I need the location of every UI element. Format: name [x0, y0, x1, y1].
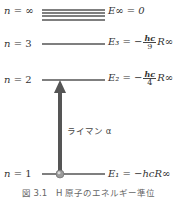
n-symbol: n [4, 38, 10, 49]
level-infinity-lines [42, 10, 105, 20]
energy-1-label: E₁ = −hcR∞ [108, 168, 170, 179]
energy-level-diagram: n = ∞ n = 3 n = 2 n = 1 E∞ = 0 E₃ = −hc9… [0, 0, 177, 201]
figure-caption: 図 3.1 H 原子のエネルギー準位 [0, 186, 177, 198]
energy-3-label: E₃ = −hc9R∞ [108, 34, 173, 51]
lyman-alpha-label: ライマン α [67, 124, 111, 136]
n-value: 3 [25, 38, 31, 49]
fraction: hc9 [143, 34, 156, 51]
n-value: ∞ [25, 5, 33, 16]
n-symbol: n [4, 74, 10, 85]
energy-2-label: E₂ = −hc4R∞ [108, 70, 173, 87]
n-symbol: n [4, 5, 10, 16]
energy-prefix: E₃ = − [108, 36, 142, 47]
n-value: 2 [25, 74, 31, 85]
electron-ball-icon [56, 170, 64, 178]
energy-infinity-label: E∞ = 0 [108, 5, 145, 16]
fraction: hc4 [143, 70, 156, 87]
energy-suffix: R∞ [157, 36, 173, 47]
n-1-label: n = 1 [4, 168, 32, 179]
lyman-alpha-arrow [54, 80, 66, 172]
n-value: 1 [25, 168, 31, 179]
n-infinity-label: n = ∞ [4, 5, 34, 16]
n-3-label: n = 3 [4, 38, 32, 49]
n-symbol: n [4, 168, 10, 179]
energy-suffix: R∞ [157, 72, 173, 83]
fraction-denominator: 9 [143, 43, 156, 51]
n-2-label: n = 2 [4, 74, 32, 85]
energy-prefix: E₂ = − [108, 72, 142, 83]
fraction-denominator: 4 [143, 79, 156, 87]
